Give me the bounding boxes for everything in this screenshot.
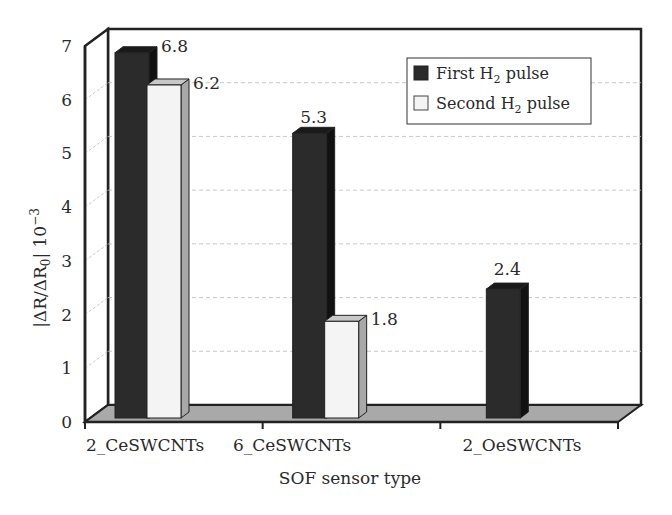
legend-item-second: Second H2 pulse: [414, 94, 570, 116]
legend-label-second-sub: 2: [515, 103, 522, 116]
data-label: 5.3: [300, 107, 327, 127]
x-tick-label: 2_OeSWCNTs: [462, 435, 581, 455]
data-label: 6.8: [161, 36, 188, 56]
y-tick-label: 4: [61, 197, 72, 217]
legend-label-second: Second H: [436, 94, 515, 113]
legend-swatch-first: [414, 66, 428, 80]
bar-first-2_OeSWCNTs: [486, 283, 528, 418]
y-tick-label: 5: [61, 143, 72, 163]
legend-label-first-suffix: pulse: [501, 64, 549, 83]
x-tick-label: 2_CeSWCNTs: [86, 435, 204, 455]
y-tick-label: 7: [61, 36, 72, 56]
data-label: 2.4: [494, 259, 521, 279]
y-tick-label: 2: [61, 305, 72, 325]
y-tick-label: 6: [61, 90, 72, 110]
y-axis-title-sub: 0: [39, 259, 53, 267]
x-tick-label: 6_CeSWCNTs: [233, 435, 351, 455]
legend-label-second-suffix: pulse: [522, 94, 570, 113]
data-label: 1.8: [371, 309, 398, 329]
legend-swatch-second: [414, 96, 428, 110]
svg-text:First H2 pulse: First H2 pulse: [436, 64, 549, 86]
y-tick-labels: 01234567: [61, 36, 72, 432]
y-axis-title: |ΔR/ΔR0| 10−3: [28, 208, 53, 328]
side-wall-panel: [85, 29, 108, 422]
bar-second-2_CeSWCNTs: [147, 79, 189, 418]
y-axis-title-tail: | 10: [30, 226, 50, 259]
x-axis-title: SOF sensor type: [279, 468, 421, 488]
legend-label-first-sub: 2: [494, 73, 501, 86]
y-tick-label: 1: [61, 358, 72, 378]
data-label: 6.2: [193, 73, 220, 93]
bar-second-6_CeSWCNTs: [325, 315, 367, 418]
y-tick-label: 3: [61, 251, 72, 271]
bar-chart: 01234567 2_CeSWCNTs6_CeSWCNTs2_OeSWCNTs …: [0, 0, 672, 515]
y-axis-title-exp: −3: [28, 208, 42, 226]
legend: First H2 pulse Second H2 pulse: [407, 58, 591, 124]
legend-label-first: First H: [436, 64, 494, 83]
legend-box: [407, 58, 591, 124]
y-axis-title-main: |ΔR/ΔR: [30, 265, 50, 328]
y-tick-label: 0: [61, 412, 72, 432]
x-tick-labels: 2_CeSWCNTs6_CeSWCNTs2_OeSWCNTs: [86, 435, 582, 455]
svg-text:Second H2 pulse: Second H2 pulse: [436, 94, 570, 116]
